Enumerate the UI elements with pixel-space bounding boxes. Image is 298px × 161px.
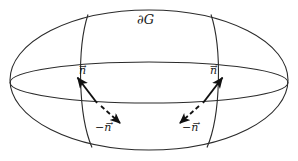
inward-normal-right-label: → −n [182, 122, 198, 133]
figure-canvas: ∂G → n → n → −n → −n [0, 0, 298, 161]
vector-glyph-n-left: → n [79, 65, 86, 76]
outer-surface-ellipse [10, 10, 288, 150]
outward-normal-right-label: → n [210, 65, 217, 76]
outward-normal-left-label: → n [79, 65, 86, 76]
vector-accent-arrow-icon: → [193, 119, 199, 128]
inward-normal-left-label: → −n [95, 122, 111, 133]
vector-glyph-minus-n-right: → −n [182, 122, 198, 133]
vector-accent-arrow-icon: → [210, 62, 217, 71]
vector-accent-arrow-icon: → [106, 119, 112, 128]
vector-glyph-n-right: → n [210, 65, 217, 76]
vector-glyph-minus-n-left: → −n [95, 122, 111, 133]
boundary-surface-label: ∂G [137, 13, 154, 26]
vector-accent-arrow-icon: → [79, 62, 86, 71]
